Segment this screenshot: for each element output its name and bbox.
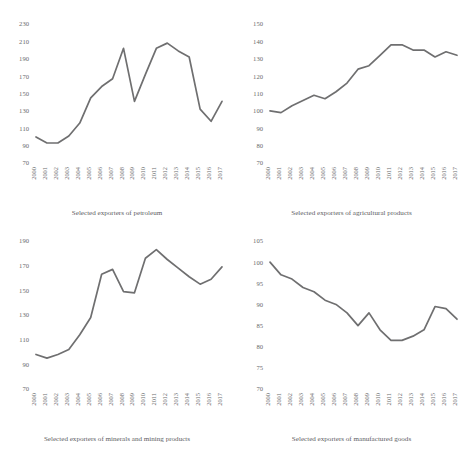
- y-axis-tick-label: 85: [256, 322, 263, 329]
- y-axis-tick-label: 90: [22, 361, 29, 368]
- x-axis-tick-label: 2011: [385, 393, 392, 406]
- y-axis-tick-label: 70: [256, 159, 263, 166]
- x-axis-tick-label: 2002: [286, 167, 293, 180]
- x-axis-tick-label: 2012: [161, 167, 168, 180]
- y-axis-tick-label: 110: [253, 90, 263, 97]
- y-axis-tick-label: 105: [253, 237, 264, 244]
- x-axis-tick-label: 2002: [286, 393, 293, 406]
- x-axis-tick-label: 2007: [107, 166, 114, 180]
- panel-caption: Selected exporters of petroleum: [72, 209, 163, 217]
- y-axis-tick-label: 70: [22, 159, 29, 166]
- x-axis-tick-label: 2004: [74, 392, 81, 406]
- x-axis-tick-label: 2013: [172, 167, 179, 180]
- x-axis-tick-label: 2001: [275, 167, 282, 180]
- x-axis-tick-label: 2004: [74, 166, 81, 180]
- x-axis-tick-label: 2011: [150, 167, 157, 180]
- plot-minerals-and-mining-products: 7090110130150170190200020012002200320042…: [0, 225, 234, 451]
- x-axis-tick-label: 2011: [150, 393, 157, 406]
- y-axis-tick-label: 110: [19, 125, 29, 132]
- x-axis-tick-label: 2006: [330, 393, 337, 406]
- x-axis-tick-label: 2010: [139, 393, 146, 406]
- y-axis-tick-label: 190: [19, 237, 30, 244]
- x-axis-tick-label: 2015: [194, 167, 201, 180]
- x-axis-tick-label: 2012: [396, 167, 403, 180]
- x-axis-tick-label: 2001: [41, 393, 48, 406]
- x-axis-tick-label: 2014: [418, 166, 425, 180]
- x-axis-tick-label: 2008: [118, 393, 125, 406]
- y-axis-tick-label: 100: [253, 259, 264, 266]
- chart-svg: 7080901001101201301401502000200120022003…: [234, 8, 469, 225]
- x-axis-tick-label: 2013: [172, 393, 179, 406]
- x-axis-tick-label: 2015: [429, 167, 436, 180]
- chart-svg: 7075808590951001052000200120022003200420…: [234, 225, 469, 451]
- x-axis-tick-label: 2001: [275, 393, 282, 406]
- figure-top-title: [0, 0, 469, 8]
- x-axis-tick-label: 2007: [341, 166, 348, 180]
- y-axis-tick-label: 90: [22, 142, 29, 149]
- y-axis-tick-label: 120: [253, 73, 264, 80]
- x-axis-tick-label: 2012: [396, 393, 403, 406]
- y-axis-tick-label: 150: [19, 287, 30, 294]
- y-axis-tick-label: 130: [19, 107, 30, 114]
- x-axis-tick-label: 2003: [63, 393, 70, 406]
- x-axis-tick-label: 2015: [429, 393, 436, 406]
- y-axis-tick-label: 70: [256, 385, 263, 392]
- x-axis-tick-label: 2008: [118, 167, 125, 180]
- x-axis-tick-label: 2002: [52, 167, 59, 180]
- panel-caption: Selected exporters of agricultural produ…: [291, 209, 412, 217]
- x-axis-tick-label: 2006: [330, 167, 337, 180]
- x-axis-tick-label: 2001: [41, 167, 48, 180]
- y-axis-tick-label: 75: [256, 364, 263, 371]
- x-axis-tick-label: 2009: [363, 393, 370, 406]
- panel-minerals-and-mining-products: 7090110130150170190200020012002200320042…: [0, 225, 234, 451]
- x-axis-tick-label: 2009: [128, 393, 135, 406]
- chart-svg: 7090110130150170190200020012002200320042…: [0, 225, 234, 451]
- y-axis-tick-label: 110: [19, 336, 29, 343]
- panel-petroleum: 7090110130150170190210230200020012002200…: [0, 8, 234, 225]
- x-axis-tick-label: 2005: [319, 167, 326, 180]
- series-line: [270, 45, 457, 113]
- chart-svg: 7090110130150170190210230200020012002200…: [0, 8, 234, 225]
- x-axis-tick-label: 2011: [385, 167, 392, 180]
- x-axis-tick-label: 2004: [308, 392, 315, 406]
- y-axis-tick-label: 90: [256, 301, 263, 308]
- x-axis-tick-label: 2003: [297, 167, 304, 180]
- x-axis-tick-label: 2003: [63, 167, 70, 180]
- series-line: [270, 262, 457, 340]
- y-axis-tick-label: 150: [19, 90, 30, 97]
- y-axis-tick-label: 70: [22, 385, 29, 392]
- x-axis-tick-label: 2012: [161, 393, 168, 406]
- x-axis-tick-label: 2010: [374, 167, 381, 180]
- x-axis-tick-label: 2017: [216, 166, 223, 180]
- y-axis-tick-label: 170: [19, 73, 30, 80]
- x-axis-tick-label: 2006: [96, 167, 103, 180]
- x-axis-tick-label: 2005: [319, 393, 326, 406]
- x-axis-tick-label: 2000: [30, 167, 37, 180]
- x-axis-tick-label: 2017: [451, 166, 458, 180]
- y-axis-tick-label: 190: [19, 55, 30, 62]
- x-axis-tick-label: 2009: [128, 167, 135, 180]
- x-axis-tick-label: 2005: [85, 167, 92, 180]
- x-axis-tick-label: 2016: [205, 167, 212, 180]
- plot-agricultural-products: 7080901001101201301401502000200120022003…: [234, 8, 469, 225]
- x-axis-tick-label: 2005: [85, 393, 92, 406]
- y-axis-tick-label: 90: [256, 125, 263, 132]
- x-axis-tick-label: 2010: [139, 167, 146, 180]
- panel-manufactured-goods: 7075808590951001052000200120022003200420…: [234, 225, 469, 451]
- x-axis-tick-label: 2013: [407, 167, 414, 180]
- x-axis-tick-label: 2000: [264, 167, 271, 180]
- x-axis-tick-label: 2006: [96, 393, 103, 406]
- x-axis-tick-label: 2013: [407, 393, 414, 406]
- panel-caption: Selected exporters of manufactured goods: [292, 435, 412, 443]
- x-axis-tick-label: 2014: [183, 166, 190, 180]
- y-axis-tick-label: 210: [19, 38, 30, 45]
- x-axis-tick-label: 2014: [418, 392, 425, 406]
- y-axis-tick-label: 150: [253, 20, 264, 27]
- x-axis-tick-label: 2007: [107, 392, 114, 406]
- y-axis-tick-label: 80: [256, 142, 263, 149]
- y-axis-tick-label: 130: [253, 55, 264, 62]
- series-line: [36, 250, 222, 359]
- figure-four-panel-line-charts: 7090110130150170190210230200020012002200…: [0, 0, 469, 451]
- plot-manufactured-goods: 7075808590951001052000200120022003200420…: [234, 225, 469, 451]
- y-axis-tick-label: 230: [19, 20, 30, 27]
